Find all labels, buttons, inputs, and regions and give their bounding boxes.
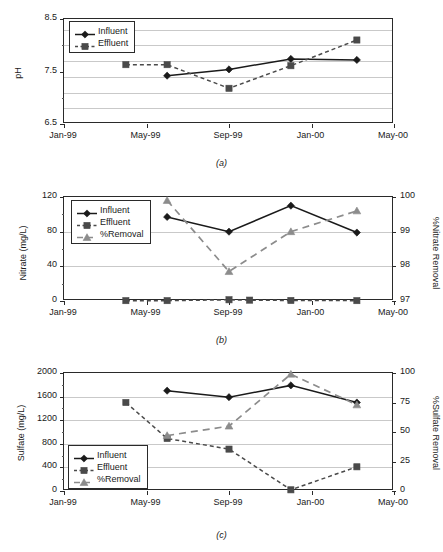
data-point-effluent bbox=[288, 63, 294, 69]
legend-label: Influent bbox=[96, 26, 128, 37]
y-tick-label-right: 100 bbox=[400, 190, 415, 200]
data-point-effluent bbox=[354, 37, 360, 43]
panel-c-caption: (c) bbox=[0, 530, 443, 540]
data-point-influent bbox=[353, 229, 360, 236]
series-line-removal bbox=[167, 374, 357, 435]
x-tick bbox=[312, 124, 313, 128]
panel-c-y-axis-label-right: %Sulfate Removal bbox=[431, 381, 441, 486]
x-tick-label: May-00 bbox=[363, 307, 423, 317]
x-tick-label: Jan-99 bbox=[33, 307, 93, 317]
panel-b-y-axis-label-right: %Nitrate Removal bbox=[431, 201, 441, 306]
data-point-removal bbox=[287, 370, 295, 377]
data-point-effluent bbox=[123, 298, 129, 304]
x-tick-label: May-00 bbox=[363, 130, 423, 140]
triangle-marker-icon bbox=[73, 474, 95, 485]
data-point-effluent bbox=[164, 298, 170, 304]
data-point-effluent bbox=[354, 464, 360, 470]
x-tick-label: Jan-00 bbox=[281, 497, 341, 507]
y-tick-label-right: 0 bbox=[400, 484, 405, 494]
legend-label: Influent bbox=[95, 450, 127, 461]
data-point-influent bbox=[225, 66, 232, 73]
series-line-influent bbox=[167, 59, 357, 76]
panel-b-caption: (b) bbox=[0, 335, 443, 345]
panel-b-y-axis-label: Nitrate (mg/L) bbox=[18, 208, 28, 298]
x-tick-label: May-99 bbox=[116, 130, 176, 140]
y-tick-label-left: 400 bbox=[23, 460, 57, 470]
data-point-influent bbox=[164, 387, 171, 394]
x-tick bbox=[229, 491, 230, 495]
data-point-effluent bbox=[354, 298, 360, 304]
legend-label: Effluent bbox=[98, 217, 130, 228]
x-tick-label: May-99 bbox=[116, 497, 176, 507]
legend-panel-c: InfluentEffluent%Removal bbox=[68, 445, 148, 489]
legend-item-effluent: Effluent bbox=[73, 461, 141, 473]
y-tick-label-left: 0 bbox=[23, 484, 57, 494]
series-line-removal bbox=[167, 200, 357, 271]
legend-panel-a: InfluentEffluent bbox=[69, 21, 135, 53]
data-point-effluent bbox=[288, 297, 294, 303]
x-tick-label: Jan-00 bbox=[281, 307, 341, 317]
data-point-effluent bbox=[164, 62, 170, 68]
legend-item-influent: Influent bbox=[76, 204, 144, 216]
data-point-removal bbox=[163, 197, 171, 204]
panel-b: Nitrate (mg/L) %Nitrate Removal (b) 0408… bbox=[0, 180, 443, 355]
x-tick bbox=[394, 124, 395, 128]
data-point-influent bbox=[164, 213, 171, 220]
x-tick-label: May-99 bbox=[116, 307, 176, 317]
y-tick-label-left: 800 bbox=[23, 437, 57, 447]
data-point-influent bbox=[287, 55, 294, 62]
x-tick-label: Sep-99 bbox=[198, 130, 258, 140]
data-point-effluent bbox=[123, 399, 129, 405]
x-tick-label: Jan-99 bbox=[33, 130, 93, 140]
panel-c: Sulfate (mg/L) %Sulfate Removal (c) 0400… bbox=[0, 358, 443, 552]
y-tick-label-right: 50 bbox=[400, 425, 410, 435]
legend-label: Effluent bbox=[95, 462, 127, 473]
diamond-marker-icon bbox=[76, 205, 98, 216]
data-point-effluent bbox=[247, 297, 253, 303]
x-tick-label: Jan-00 bbox=[281, 130, 341, 140]
x-tick-label: May-00 bbox=[363, 497, 423, 507]
panel-a: pH (a) 6.57.58.5Jan-99May-99Sep-99Jan-00… bbox=[0, 0, 443, 178]
y-tick-label-right: 25 bbox=[400, 455, 410, 465]
diamond-marker-icon bbox=[73, 450, 95, 461]
figure-three-panel-water-quality: pH (a) 6.57.58.5Jan-99May-99Sep-99Jan-00… bbox=[0, 0, 443, 552]
x-tick bbox=[64, 301, 65, 305]
y-tick-label-right: 99 bbox=[400, 225, 410, 235]
y-tick-label-left: 80 bbox=[23, 225, 57, 235]
triangle-marker-icon bbox=[76, 229, 98, 240]
y-tick-label-left: 1600 bbox=[23, 390, 57, 400]
legend-panel-b: InfluentEffluent%Removal bbox=[71, 200, 151, 244]
y-tick-label-left: 1200 bbox=[23, 413, 57, 423]
legend-label: %Removal bbox=[95, 474, 141, 485]
x-tick bbox=[64, 491, 65, 495]
data-point-influent bbox=[225, 228, 232, 235]
series-line-effluent bbox=[126, 300, 357, 301]
data-point-effluent bbox=[288, 487, 294, 493]
series-line-influent bbox=[167, 385, 357, 402]
x-tick bbox=[147, 124, 148, 128]
x-tick-label: Sep-99 bbox=[198, 307, 258, 317]
data-point-effluent bbox=[226, 85, 232, 91]
square-marker-icon bbox=[73, 462, 95, 473]
y-tick-label-left: 2000 bbox=[23, 366, 57, 376]
y-tick-label-right: 100 bbox=[400, 366, 415, 376]
y-tick-label-right: 75 bbox=[400, 396, 410, 406]
x-tick bbox=[394, 491, 395, 495]
data-point-influent bbox=[353, 56, 360, 63]
diamond-marker-icon bbox=[74, 26, 96, 37]
y-tick-label-right: 98 bbox=[400, 259, 410, 269]
x-tick bbox=[394, 301, 395, 305]
x-tick bbox=[147, 491, 148, 495]
square-marker-icon bbox=[74, 38, 96, 49]
y-tick-label-left: 0 bbox=[23, 294, 57, 304]
y-tick-label-left: 120 bbox=[23, 190, 57, 200]
x-tick bbox=[312, 491, 313, 495]
x-tick-label: Jan-99 bbox=[33, 497, 93, 507]
data-point-effluent bbox=[123, 62, 129, 68]
legend-item-removal: %Removal bbox=[73, 473, 141, 485]
series-line-effluent bbox=[126, 40, 357, 88]
legend-label: Influent bbox=[98, 205, 130, 216]
data-point-removal bbox=[353, 207, 361, 214]
panel-a-caption: (a) bbox=[0, 158, 443, 168]
data-point-influent bbox=[287, 382, 294, 389]
